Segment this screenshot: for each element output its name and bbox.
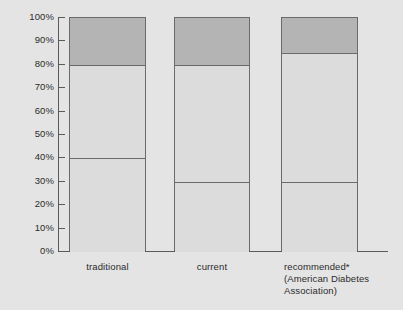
segment-divider	[70, 158, 145, 159]
y-axis-tick	[58, 40, 65, 41]
y-axis-tick-label-wrap: 100%	[0, 12, 54, 22]
bar-segment-top-segment	[70, 18, 145, 65]
y-axis-tick-label: 40%	[8, 152, 54, 162]
y-axis-tick-label-wrap: 70%	[0, 82, 54, 92]
y-axis-tick	[58, 111, 65, 112]
bar-segment-middle-segment	[70, 65, 145, 159]
y-axis-tick-label: 0%	[8, 246, 54, 256]
segment-divider	[70, 65, 145, 66]
bar-segment-middle-segment	[175, 65, 249, 182]
y-axis-tick	[58, 181, 65, 182]
y-axis-tick-label-wrap: 50%	[0, 129, 54, 139]
category-label: current	[174, 261, 250, 273]
y-axis-tick	[58, 64, 65, 65]
y-axis-tick-label-wrap: 80%	[0, 59, 54, 69]
stacked-bar-chart: 100%90%80%70%60%50%40%30%20%10%0% tradit…	[0, 0, 403, 310]
bar-segment-bottom-segment	[175, 182, 249, 252]
y-axis-tick-label-wrap: 30%	[0, 176, 54, 186]
y-axis-tick-label-wrap: 60%	[0, 106, 54, 116]
y-axis-tick	[58, 87, 65, 88]
category-label-main: traditional	[69, 261, 146, 273]
y-axis-tick-label-wrap: 10%	[0, 223, 54, 233]
y-axis-tick-label: 20%	[8, 199, 54, 209]
bar-segment-bottom-segment	[282, 182, 357, 252]
y-axis-tick-label: 100%	[8, 12, 54, 22]
bar-segment-bottom-segment	[70, 158, 145, 252]
bar-traditional	[69, 17, 146, 251]
y-axis-tick-label: 10%	[8, 223, 54, 233]
category-label-sub1: (American Diabetes	[284, 273, 403, 285]
segment-divider	[175, 65, 249, 66]
y-axis-tick-label: 90%	[8, 35, 54, 45]
category-label: recommended*(American DiabetesAssociatio…	[284, 261, 403, 297]
segment-divider	[282, 182, 357, 183]
category-label: traditional	[69, 261, 146, 273]
y-axis-tick-label: 30%	[8, 176, 54, 186]
y-axis-tick-label: 60%	[8, 106, 54, 116]
category-label-main: recommended*	[284, 261, 403, 273]
y-axis-tick-label: 50%	[8, 129, 54, 139]
y-axis-tick	[58, 204, 65, 205]
bar-segment-top-segment	[175, 18, 249, 65]
segment-divider	[282, 53, 357, 54]
y-axis-tick-label: 80%	[8, 59, 54, 69]
bar-current	[174, 17, 250, 251]
y-axis-tick	[58, 17, 65, 18]
bar-segment-top-segment	[282, 18, 357, 53]
y-axis-tick-label-wrap: 0%	[0, 246, 54, 256]
y-axis-tick	[58, 157, 65, 158]
category-label-sub2: Association)	[284, 285, 403, 297]
y-axis-tick-label-wrap: 40%	[0, 152, 54, 162]
y-axis-tick	[58, 251, 65, 252]
category-label-main: current	[174, 261, 250, 273]
y-axis-tick-label: 70%	[8, 82, 54, 92]
y-axis-tick-label-wrap: 20%	[0, 199, 54, 209]
y-axis-tick	[58, 134, 65, 135]
y-axis-tick-label-wrap: 90%	[0, 35, 54, 45]
bar-recommended-	[281, 17, 358, 251]
y-axis-tick	[58, 228, 65, 229]
bar-segment-middle-segment	[282, 53, 357, 182]
segment-divider	[175, 182, 249, 183]
